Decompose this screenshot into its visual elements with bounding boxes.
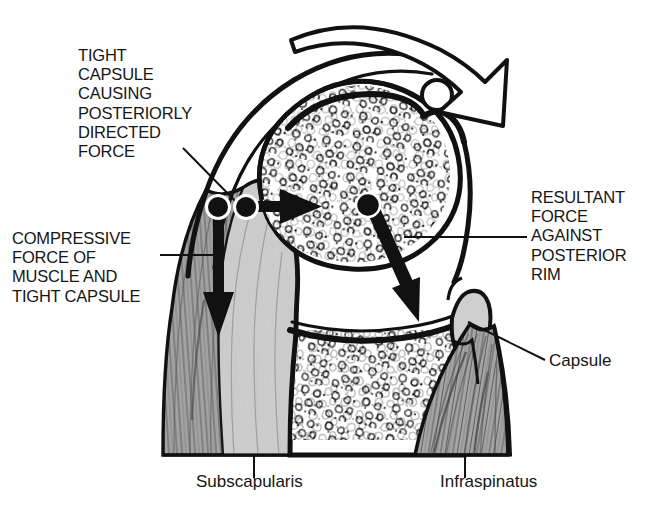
label-capsule: Capsule [549, 351, 611, 370]
label-tight-capsule: TIGHT CAPSULE CAUSING POSTERIORLY DIRECT… [78, 46, 192, 161]
label-resultant-force: RESULTANT FORCE AGAINST POSTERIOR RIM [531, 188, 626, 284]
label-subscapularis: Subscapularis [196, 472, 303, 491]
anatomical-figure: TIGHT CAPSULE CAUSING POSTERIORLY DIRECT… [0, 0, 658, 511]
label-infraspinatus: Infraspinatus [440, 472, 537, 491]
label-compressive-force: COMPRESSIVE FORCE OF MUSCLE AND TIGHT CA… [12, 229, 140, 306]
